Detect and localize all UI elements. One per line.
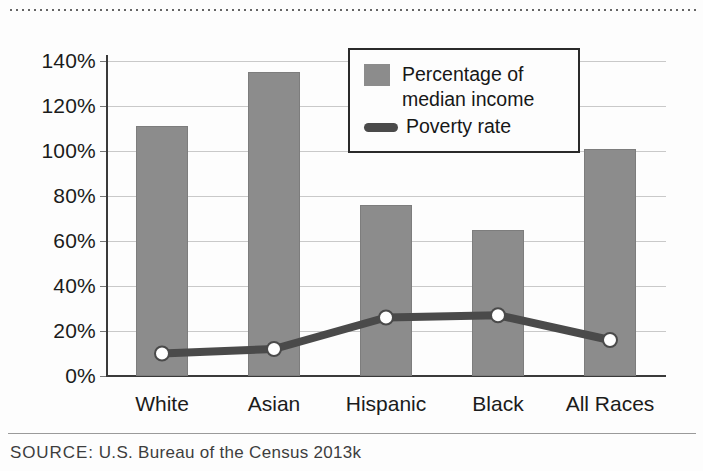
y-axis-tick-label: 120% — [41, 94, 96, 118]
x-axis-label-white: White — [135, 392, 189, 416]
legend-line-icon — [364, 123, 398, 132]
y-axis-tick-label: 140% — [41, 49, 96, 73]
y-axis-tick-label: 80% — [53, 184, 96, 208]
chart-figure: 0%20%40%60%80%100%120%140% WhiteAsianHis… — [0, 0, 703, 471]
legend-item-percentage-of-median-income: Percentage of median income — [364, 62, 534, 112]
x-axis-category-labels: WhiteAsianHispanicBlackAll Races — [106, 392, 666, 422]
source-text: U.S. Bureau of the Census 2013k — [99, 443, 362, 462]
bar-all-races — [584, 149, 636, 376]
bar-asian — [248, 72, 300, 376]
source-label: SOURCE: — [10, 443, 94, 462]
x-axis-label-asian: Asian — [248, 392, 301, 416]
chart-legend: Percentage of median income Poverty rate — [348, 48, 580, 153]
y-axis-tick-label: 100% — [41, 139, 96, 163]
legend-item-poverty-rate: Poverty rate — [364, 114, 511, 139]
bar-white — [136, 126, 188, 376]
x-axis-label-black: Black — [472, 392, 523, 416]
source-note: SOURCE: U.S. Bureau of the Census 2013k — [10, 443, 361, 463]
bar-black — [472, 230, 524, 376]
footer-divider — [8, 433, 696, 434]
x-axis-label-all-races: All Races — [566, 392, 655, 416]
y-axis-tick-label: 60% — [53, 229, 96, 253]
bar-hispanic — [360, 205, 412, 376]
x-axis-label-hispanic: Hispanic — [346, 392, 427, 416]
legend-label-percentage-of-median-income: Percentage of median income — [402, 62, 534, 112]
y-axis-tick-label: 20% — [53, 319, 96, 343]
y-axis-tick-labels: 0%20%40%60%80%100%120%140% — [0, 40, 104, 390]
y-axis-tick-label: 40% — [53, 274, 96, 298]
top-dotted-rule — [8, 8, 696, 12]
legend-swatch-icon — [364, 64, 390, 86]
y-axis-tick-label: 0% — [65, 364, 96, 388]
legend-label-poverty-rate: Poverty rate — [406, 114, 511, 139]
